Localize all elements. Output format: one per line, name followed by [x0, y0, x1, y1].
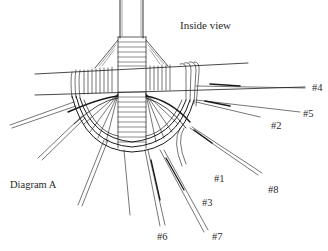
spoke-label-8: #8 [268, 185, 279, 196]
title-inside-view: Inside view [180, 20, 231, 31]
spoke-label-7: #7 [212, 232, 223, 243]
spoke-label-3: #3 [202, 198, 213, 209]
spoke-label-2: #2 [271, 121, 282, 132]
spoke-label-5: #5 [303, 109, 314, 120]
caption-diagram-a: Diagram A [10, 180, 56, 191]
spoke-label-1: #1 [214, 174, 225, 185]
spoke-label-6: #6 [157, 232, 168, 243]
shoulder-wrap [95, 40, 168, 68]
handle-pole [120, 0, 143, 38]
bowl-arcs [68, 96, 194, 152]
right-spokes [145, 84, 305, 232]
spoke-label-4: #4 [312, 83, 323, 94]
